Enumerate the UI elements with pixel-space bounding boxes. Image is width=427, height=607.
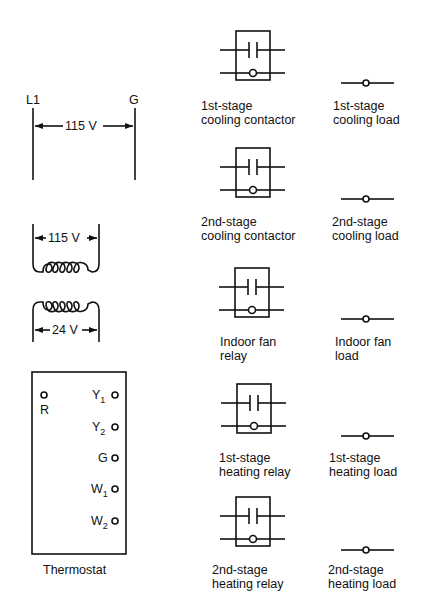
load-label-1st-stage-cooling: 1st-stage cooling load: [333, 99, 400, 127]
terminal-g-label: G: [98, 451, 108, 465]
relay-label-1st-stage-heating: 1st-stage heating relay: [219, 451, 291, 479]
terminal-y1-label: Y1: [92, 388, 105, 407]
terminal-w1-label: W1: [91, 482, 108, 501]
terminal-g-icon: [112, 455, 118, 461]
relay-label-2nd-stage-heating: 2nd-stage heating relay: [212, 563, 284, 591]
load-icon-1st-stage-cooling: [341, 80, 394, 86]
g-terminal-label: G: [129, 93, 139, 107]
terminal-y1-icon: [112, 392, 118, 398]
terminal-w2-icon: [112, 518, 118, 524]
load-label-indoor-fan: Indoor fan load: [335, 335, 391, 363]
supply-voltage-label: 115 V: [65, 119, 97, 133]
relay-icon-1st-stage-heating: [221, 384, 286, 433]
terminal-r-icon: [41, 392, 47, 398]
load-icon-indoor-fan: [341, 316, 394, 322]
terminal-r-label: R: [40, 403, 49, 417]
primary-voltage-label: 115 V: [48, 231, 80, 245]
wiring-components-diagram: [0, 0, 427, 607]
relay-label-indoor-fan: Indoor fan relay: [220, 335, 276, 363]
l1-terminal-label: L1: [26, 93, 40, 107]
load-icon-2nd-stage-heating: [341, 547, 394, 553]
relay-icon-2nd-stage-heating: [220, 497, 285, 546]
thermostat-label: Thermostat: [43, 563, 106, 577]
terminal-w2-label: W2: [91, 514, 108, 533]
relay-icon-2nd-stage-cooling: [220, 148, 285, 197]
terminal-y2-icon: [112, 424, 118, 430]
load-label-2nd-stage-heating: 2nd-stage heating load: [328, 563, 396, 591]
secondary-voltage-label: 24 V: [52, 323, 78, 337]
load-icon-1st-stage-heating: [341, 433, 394, 439]
terminal-y2-label: Y2: [92, 420, 105, 439]
relay-label-2nd-stage-cooling: 2nd-stage cooling contactor: [201, 215, 296, 243]
thermostat-box: [32, 372, 126, 554]
relay-icon-1st-stage-cooling: [220, 31, 285, 80]
load-label-2nd-stage-cooling: 2nd-stage cooling load: [332, 215, 399, 243]
load-symbols: [341, 80, 394, 553]
load-label-1st-stage-heating: 1st-stage heating load: [329, 451, 397, 479]
relay-icon-indoor-fan: [219, 268, 284, 317]
terminal-w1-icon: [112, 486, 118, 492]
relay-label-1st-stage-cooling: 1st-stage cooling contactor: [201, 99, 296, 127]
load-icon-2nd-stage-cooling: [341, 196, 394, 202]
